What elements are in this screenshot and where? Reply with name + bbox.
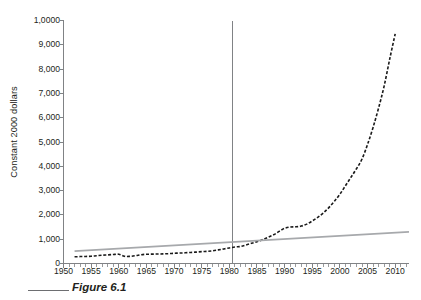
axis-lines [64,21,410,264]
data-series-group [75,34,409,257]
data-series-line [75,34,396,257]
plot-area [0,0,421,300]
figure-caption-label: Figure 6.1 [72,281,126,293]
y-axis-major-ticks [60,21,64,264]
figure-caption: Figure 6.1 [0,281,421,300]
caption-rule [28,290,69,291]
figure-container: Constant 2000 dollars 01,0002,0003,0004,… [0,0,421,300]
data-series-line [75,232,409,251]
